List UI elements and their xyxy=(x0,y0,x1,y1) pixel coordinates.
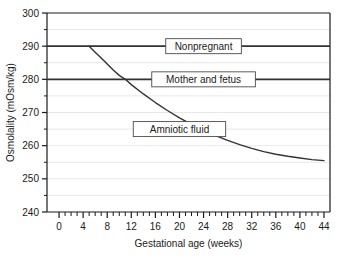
x-tick-label: 28 xyxy=(222,221,234,232)
series-label-0: Nonpregnant xyxy=(166,39,242,54)
y-tick-label: 260 xyxy=(22,140,39,151)
y-tick-label: 250 xyxy=(22,173,39,184)
y-tick-label: 290 xyxy=(22,41,39,52)
x-tick-label: 36 xyxy=(270,221,282,232)
series-label-text: Amniotic fluid xyxy=(150,124,209,135)
series-label-2: Amniotic fluid xyxy=(133,122,225,137)
series-label-text: Mother and fetus xyxy=(166,74,241,85)
x-axis-title: Gestational age (weeks) xyxy=(135,238,243,249)
osmolality-gestational-age-chart: 2402502602702802903000481216202428323640… xyxy=(0,0,342,273)
series-label-text: Nonpregnant xyxy=(175,41,233,52)
x-tick-label: 16 xyxy=(150,221,162,232)
x-tick-label: 20 xyxy=(174,221,186,232)
x-tick-label: 32 xyxy=(246,221,258,232)
x-tick-label: 4 xyxy=(80,221,86,232)
series-curve-2 xyxy=(89,46,324,160)
x-tick-label: 44 xyxy=(318,221,330,232)
x-tick-label: 40 xyxy=(294,221,306,232)
x-tick-label: 0 xyxy=(56,221,62,232)
x-tick-label: 8 xyxy=(104,221,110,232)
y-tick-label: 280 xyxy=(22,74,39,85)
y-tick-label: 300 xyxy=(22,8,39,19)
series-label-1: Mother and fetus xyxy=(152,72,256,87)
y-axis-title: Osmolality (mOsm/kg) xyxy=(5,63,16,162)
y-tick-label: 270 xyxy=(22,107,39,118)
y-tick-label: 240 xyxy=(22,207,39,218)
x-tick-label: 24 xyxy=(198,221,210,232)
chart-container: 2402502602702802903000481216202428323640… xyxy=(0,0,342,273)
x-tick-label: 12 xyxy=(126,221,138,232)
